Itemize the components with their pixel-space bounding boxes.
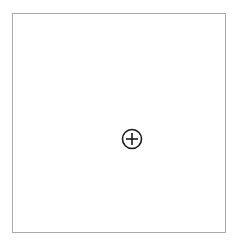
- add-button-label: [121, 150, 122, 151]
- circle-plus-icon: [121, 128, 143, 150]
- add-item-panel[interactable]: [12, 13, 226, 233]
- canvas: [0, 0, 235, 245]
- add-button[interactable]: [121, 128, 143, 150]
